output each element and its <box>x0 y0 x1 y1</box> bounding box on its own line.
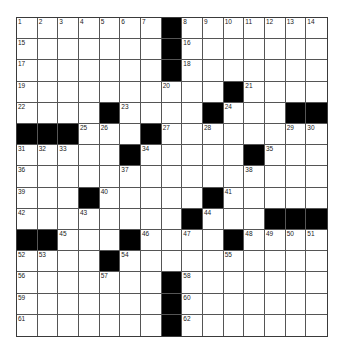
crossword-cell[interactable] <box>224 294 245 315</box>
crossword-cell[interactable] <box>58 294 79 315</box>
crossword-cell[interactable]: 11 <box>244 18 265 39</box>
crossword-cell[interactable] <box>265 294 286 315</box>
crossword-cell[interactable] <box>38 82 59 103</box>
crossword-cell[interactable] <box>224 124 245 145</box>
crossword-cell[interactable] <box>141 39 162 60</box>
crossword-cell[interactable] <box>265 82 286 103</box>
crossword-cell[interactable]: 31 <box>17 145 38 166</box>
crossword-cell[interactable]: 4 <box>79 18 100 39</box>
crossword-cell[interactable]: 45 <box>58 230 79 251</box>
crossword-cell[interactable]: 54 <box>120 251 141 272</box>
crossword-cell[interactable] <box>120 272 141 293</box>
crossword-cell[interactable] <box>141 166 162 187</box>
crossword-cell[interactable] <box>38 315 59 336</box>
crossword-cell[interactable]: 16 <box>182 39 203 60</box>
crossword-cell[interactable] <box>286 166 307 187</box>
crossword-cell[interactable] <box>224 209 245 230</box>
crossword-cell[interactable]: 59 <box>17 294 38 315</box>
crossword-cell[interactable] <box>286 251 307 272</box>
crossword-cell[interactable] <box>120 315 141 336</box>
crossword-cell[interactable]: 13 <box>286 18 307 39</box>
crossword-cell[interactable] <box>306 39 327 60</box>
crossword-cell[interactable] <box>306 166 327 187</box>
crossword-cell[interactable]: 24 <box>224 103 245 124</box>
crossword-cell[interactable]: 37 <box>120 166 141 187</box>
crossword-cell[interactable] <box>306 82 327 103</box>
crossword-cell[interactable] <box>244 315 265 336</box>
crossword-cell[interactable] <box>286 82 307 103</box>
crossword-cell[interactable]: 38 <box>244 166 265 187</box>
crossword-cell[interactable]: 3 <box>58 18 79 39</box>
crossword-cell[interactable] <box>182 82 203 103</box>
crossword-cell[interactable]: 43 <box>79 209 100 230</box>
crossword-cell[interactable] <box>120 60 141 81</box>
crossword-cell[interactable] <box>100 230 121 251</box>
crossword-cell[interactable]: 23 <box>120 103 141 124</box>
crossword-cell[interactable] <box>79 82 100 103</box>
crossword-cell[interactable]: 7 <box>141 18 162 39</box>
crossword-cell[interactable] <box>244 39 265 60</box>
crossword-cell[interactable] <box>141 251 162 272</box>
crossword-cell[interactable] <box>265 188 286 209</box>
crossword-cell[interactable] <box>141 209 162 230</box>
crossword-cell[interactable]: 27 <box>162 124 183 145</box>
crossword-cell[interactable] <box>79 272 100 293</box>
crossword-cell[interactable] <box>182 145 203 166</box>
crossword-cell[interactable] <box>244 124 265 145</box>
crossword-cell[interactable]: 1 <box>17 18 38 39</box>
crossword-cell[interactable] <box>120 39 141 60</box>
crossword-cell[interactable] <box>79 60 100 81</box>
crossword-cell[interactable] <box>58 39 79 60</box>
crossword-cell[interactable] <box>141 315 162 336</box>
crossword-cell[interactable]: 36 <box>17 166 38 187</box>
crossword-cell[interactable] <box>306 272 327 293</box>
crossword-cell[interactable] <box>265 251 286 272</box>
crossword-cell[interactable] <box>100 39 121 60</box>
crossword-cell[interactable] <box>244 209 265 230</box>
crossword-cell[interactable]: 53 <box>38 251 59 272</box>
crossword-cell[interactable] <box>265 103 286 124</box>
crossword-cell[interactable] <box>286 294 307 315</box>
crossword-cell[interactable] <box>100 166 121 187</box>
crossword-cell[interactable] <box>306 188 327 209</box>
crossword-cell[interactable]: 34 <box>141 145 162 166</box>
crossword-cell[interactable] <box>58 166 79 187</box>
crossword-cell[interactable]: 22 <box>17 103 38 124</box>
crossword-cell[interactable]: 46 <box>141 230 162 251</box>
crossword-cell[interactable]: 47 <box>182 230 203 251</box>
crossword-cell[interactable] <box>244 188 265 209</box>
crossword-cell[interactable]: 5 <box>100 18 121 39</box>
crossword-cell[interactable] <box>38 103 59 124</box>
crossword-cell[interactable] <box>58 103 79 124</box>
crossword-cell[interactable] <box>79 39 100 60</box>
crossword-cell[interactable] <box>100 82 121 103</box>
crossword-cell[interactable]: 6 <box>120 18 141 39</box>
crossword-cell[interactable] <box>244 251 265 272</box>
crossword-cell[interactable] <box>38 294 59 315</box>
crossword-cell[interactable] <box>306 251 327 272</box>
crossword-cell[interactable] <box>265 60 286 81</box>
crossword-cell[interactable]: 30 <box>306 124 327 145</box>
crossword-cell[interactable]: 8 <box>182 18 203 39</box>
crossword-cell[interactable] <box>79 103 100 124</box>
crossword-cell[interactable]: 49 <box>265 230 286 251</box>
crossword-cell[interactable] <box>286 145 307 166</box>
crossword-cell[interactable] <box>100 294 121 315</box>
crossword-cell[interactable]: 33 <box>58 145 79 166</box>
crossword-cell[interactable] <box>162 188 183 209</box>
crossword-cell[interactable] <box>306 315 327 336</box>
crossword-cell[interactable] <box>203 294 224 315</box>
crossword-cell[interactable] <box>224 272 245 293</box>
crossword-cell[interactable] <box>58 82 79 103</box>
crossword-cell[interactable] <box>306 294 327 315</box>
crossword-cell[interactable]: 44 <box>203 209 224 230</box>
crossword-cell[interactable]: 56 <box>17 272 38 293</box>
crossword-cell[interactable] <box>182 166 203 187</box>
crossword-cell[interactable] <box>203 82 224 103</box>
crossword-cell[interactable]: 28 <box>203 124 224 145</box>
crossword-cell[interactable]: 14 <box>306 18 327 39</box>
crossword-cell[interactable] <box>58 272 79 293</box>
crossword-cell[interactable] <box>141 294 162 315</box>
crossword-cell[interactable] <box>162 166 183 187</box>
crossword-cell[interactable]: 35 <box>265 145 286 166</box>
